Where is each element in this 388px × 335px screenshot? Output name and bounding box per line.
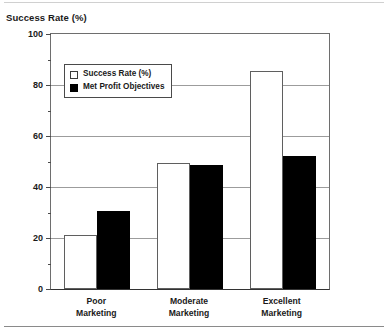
- y-axis-label: 20: [33, 234, 43, 243]
- legend-label-met-profit-objectives: Met Profit Objectives: [83, 83, 164, 91]
- legend-label-success-rate: Success Rate (%): [83, 70, 151, 78]
- bar-success-rate: [250, 71, 283, 289]
- legend-swatch-icon-success-rate: [70, 71, 78, 79]
- x-axis-category-label: ExcellentMarketing: [235, 296, 328, 319]
- y-axis-minor-tick: [48, 162, 51, 163]
- y-axis-tick: [46, 238, 51, 239]
- bottom-divider-rule: [4, 326, 384, 327]
- y-axis-label: 60: [33, 132, 43, 141]
- bar-success-rate: [64, 235, 97, 289]
- y-axis-minor-tick: [48, 264, 51, 265]
- gridline: [51, 136, 329, 137]
- y-axis-minor-tick: [48, 60, 51, 61]
- bar-success-rate: [157, 163, 190, 289]
- x-axis-category-label-line: Marketing: [143, 308, 236, 320]
- legend-item-met-profit-objectives: Met Profit Objectives: [70, 82, 164, 93]
- bar-met-profit-objectives: [97, 211, 130, 289]
- x-axis-category-label: ModerateMarketing: [143, 296, 236, 319]
- legend-swatch-icon-met-profit-objectives: [70, 84, 78, 92]
- x-axis-category-label-line: Marketing: [50, 308, 143, 320]
- x-axis-category-label-line: Marketing: [235, 308, 328, 320]
- bar-met-profit-objectives: [190, 165, 223, 289]
- y-axis-tick: [46, 34, 51, 35]
- y-axis-minor-tick: [48, 213, 51, 214]
- chart-title: Success Rate (%): [6, 12, 87, 23]
- y-axis-tick: [46, 85, 51, 86]
- x-axis-category-label-line: Moderate: [143, 296, 236, 308]
- x-axis-category-label-line: Poor: [50, 296, 143, 308]
- y-axis-label: 100: [28, 30, 43, 39]
- chart-legend: Success Rate (%) Met Profit Objectives: [64, 64, 172, 98]
- y-axis-label: 40: [33, 183, 43, 192]
- y-axis-tick: [46, 136, 51, 137]
- legend-item-success-rate: Success Rate (%): [70, 69, 164, 80]
- y-axis-tick: [46, 289, 51, 290]
- chart-figure: Success Rate (%) 020406080100 Success Ra…: [0, 0, 388, 335]
- y-axis-minor-tick: [48, 111, 51, 112]
- y-axis-label: 0: [38, 285, 43, 294]
- bar-met-profit-objectives: [283, 156, 316, 289]
- x-axis-category-label: PoorMarketing: [50, 296, 143, 319]
- y-axis-label: 80: [33, 81, 43, 90]
- x-axis-category-label-line: Excellent: [235, 296, 328, 308]
- y-axis-tick: [46, 187, 51, 188]
- top-divider-rule: [4, 2, 384, 3]
